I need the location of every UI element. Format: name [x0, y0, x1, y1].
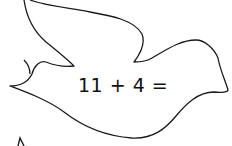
dove-tail-notch: [24, 60, 30, 74]
dove-outline-icon: [0, 0, 232, 146]
corner-mark: [18, 138, 24, 146]
worksheet-canvas: 11 + 4 =: [0, 0, 232, 146]
math-equation: 11 + 4 =: [78, 76, 168, 95]
dove-body-outline: [10, 0, 228, 138]
